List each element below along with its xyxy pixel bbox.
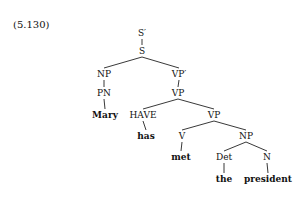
tree-node-det: Det — [216, 152, 232, 162]
tree-node-vpbar: VP′ — [172, 69, 187, 79]
tree-node-v: V — [179, 131, 186, 141]
tree-edge — [246, 142, 267, 151]
tree-node-the: the — [216, 174, 232, 184]
tree-node-president: president — [244, 174, 292, 184]
tree-node-np2: NP — [239, 131, 253, 141]
tree-node-n: N — [263, 152, 271, 162]
tree-edge — [143, 121, 146, 130]
tree-node-sbar: S′ — [138, 28, 146, 38]
tree-node-met: met — [171, 152, 190, 162]
tree-edge — [143, 99, 178, 109]
tree-edge — [181, 142, 182, 151]
tree-edge — [182, 121, 214, 130]
tree-edge — [104, 57, 142, 68]
tree-edge — [224, 142, 246, 151]
tree-edge — [214, 121, 246, 130]
tree-edge — [104, 99, 105, 109]
tree-node-pn: PN — [97, 88, 111, 98]
tree-edge — [178, 99, 214, 109]
tree-edge — [178, 80, 179, 87]
tree-node-mary: Mary — [92, 110, 118, 120]
tree-node-have: HAVE — [130, 110, 157, 120]
tree-node-vp1: VP — [172, 88, 185, 98]
tree-node-vp2: VP — [208, 110, 221, 120]
tree-node-s: S — [139, 46, 145, 56]
tree-node-has: has — [137, 131, 154, 141]
tree-edge — [142, 57, 179, 68]
tree-node-np1: NP — [97, 69, 111, 79]
tree-edge — [267, 163, 268, 173]
